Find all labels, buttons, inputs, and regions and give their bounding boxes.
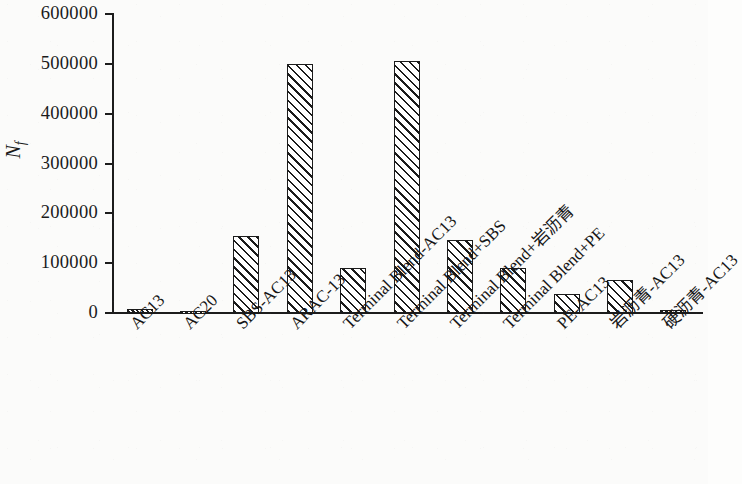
y-axis-tick: [105, 13, 113, 15]
y-axis-tick-label: 600000: [0, 3, 98, 23]
y-axis-tick: [105, 63, 113, 65]
y-axis-tick-label-text: 100000: [0, 252, 98, 273]
y-axis-tick-label: 0: [0, 302, 98, 322]
y-axis-label-subscript: f: [13, 141, 28, 145]
y-axis-tick-label: 100000: [0, 252, 98, 272]
y-axis-tick-label-text: 500000: [0, 53, 98, 74]
y-axis-tick-label-text: 200000: [0, 202, 98, 223]
y-axis-tick-label: 300000: [0, 153, 98, 173]
y-axis-tick: [105, 212, 113, 214]
y-axis-tick-label-text: 0: [0, 302, 98, 323]
y-axis-tick-label-text: 300000: [0, 153, 98, 174]
y-axis-tick-label: 200000: [0, 202, 98, 222]
y-axis-tick: [105, 113, 113, 115]
y-axis-tick-label: 400000: [0, 103, 98, 123]
y-axis-tick-label: 500000: [0, 53, 98, 73]
y-axis-tick: [105, 262, 113, 264]
y-axis-tick-label-text: 400000: [0, 103, 98, 124]
y-axis-tick-label-text: 600000: [0, 3, 98, 24]
y-axis-tick: [105, 163, 113, 165]
y-axis-tick: [105, 312, 113, 314]
